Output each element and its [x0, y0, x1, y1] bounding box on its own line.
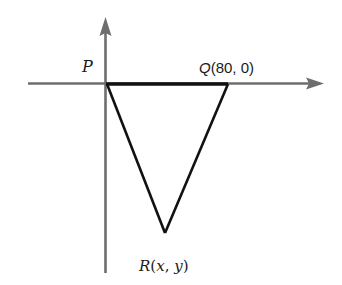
r-letter: R	[139, 257, 150, 275]
r-close-paren: )	[183, 257, 189, 275]
coordinate-diagram	[0, 0, 342, 285]
vertex-label-r: R(x, y)	[139, 259, 189, 274]
q-coordinates: (80, 0)	[211, 59, 254, 76]
r-y-var: y	[174, 257, 182, 275]
vertex-label-q: Q(80, 0)	[199, 60, 254, 76]
y-axis	[100, 17, 112, 273]
vertex-label-p: P	[82, 59, 93, 75]
r-x-var: x	[156, 257, 164, 275]
side-qr	[165, 84, 228, 233]
triangle-pqr	[106, 84, 228, 233]
q-letter: Q	[199, 59, 211, 76]
r-comma: ,	[165, 257, 175, 275]
side-pr	[107, 84, 165, 233]
